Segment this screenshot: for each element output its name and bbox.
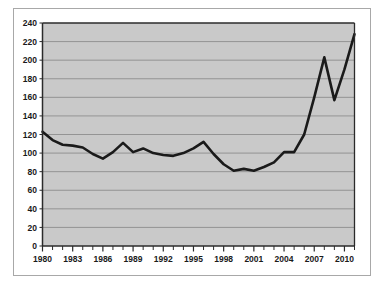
- y-tick-label-180: 180: [23, 74, 37, 84]
- y-axis-ticks-group: 020406080100120140160180200220240: [23, 18, 43, 251]
- line-chart: 020406080100120140160180200220240 198019…: [0, 0, 380, 289]
- x-tick-label-2004: 2004: [275, 254, 294, 264]
- x-tick-label-2010: 2010: [335, 254, 354, 264]
- x-tick-label-2007: 2007: [305, 254, 324, 264]
- y-tick-label-80: 80: [28, 167, 38, 177]
- y-tick-label-0: 0: [32, 241, 37, 251]
- y-tick-label-20: 20: [28, 223, 38, 233]
- y-tick-label-220: 220: [23, 37, 37, 47]
- x-tick-label-1992: 1992: [154, 254, 173, 264]
- y-tick-label-100: 100: [23, 148, 37, 158]
- x-tick-label-1998: 1998: [214, 254, 233, 264]
- y-tick-label-120: 120: [23, 130, 37, 140]
- x-tick-label-1986: 1986: [93, 254, 112, 264]
- y-tick-label-200: 200: [23, 55, 37, 65]
- y-tick-label-160: 160: [23, 92, 37, 102]
- x-tick-label-2001: 2001: [244, 254, 263, 264]
- x-axis-ticks-group: 1980198319861989199219951998200120042007…: [33, 246, 354, 264]
- y-tick-label-60: 60: [28, 185, 38, 195]
- x-tick-label-1989: 1989: [124, 254, 143, 264]
- y-tick-label-40: 40: [28, 204, 38, 214]
- x-tick-label-1995: 1995: [184, 254, 203, 264]
- chart-figure: 020406080100120140160180200220240 198019…: [0, 0, 380, 289]
- y-tick-label-140: 140: [23, 111, 37, 121]
- x-tick-label-1980: 1980: [33, 254, 52, 264]
- x-tick-label-1983: 1983: [63, 254, 82, 264]
- y-tick-label-240: 240: [23, 18, 37, 28]
